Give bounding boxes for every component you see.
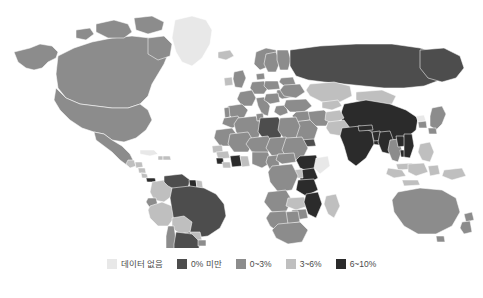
legend-item-below-zero: 0% 미만	[177, 259, 222, 269]
map-legend: 데이터 없음 0% 미만 0~3% 3~6% 6~10%	[0, 252, 483, 276]
country-haiti	[158, 156, 163, 160]
country-honduras	[135, 162, 143, 168]
legend-item-label: 6~10%	[350, 259, 377, 269]
country-ghana	[240, 156, 250, 167]
zero-to-three-swatch	[236, 259, 246, 269]
six-to-ten-swatch	[336, 259, 346, 269]
country-denmark	[256, 73, 265, 80]
country-finland	[277, 50, 291, 70]
country-ireland	[224, 77, 233, 86]
legend-item-six-to-ten: 6~10%	[336, 259, 377, 269]
country-indonesia-sulawesi	[428, 165, 440, 176]
legend-item-label: 3~6%	[300, 259, 322, 269]
legend-item-label: 0~3%	[250, 259, 272, 269]
country-portugal	[224, 107, 230, 118]
country-costa-rica	[141, 173, 148, 178]
legend-item-label: 데이터 없음	[121, 259, 163, 269]
three-to-six-swatch	[286, 259, 296, 269]
country-nepal	[358, 125, 373, 131]
legend-item-no-data: 데이터 없음	[107, 259, 163, 269]
legend-item-label: 0% 미만	[191, 259, 222, 269]
country-indonesia-java	[402, 180, 420, 186]
choropleth-map	[0, 0, 483, 248]
country-new-zealand-north	[464, 212, 474, 222]
legend-item-zero-to-three: 0~3%	[236, 259, 272, 269]
country-japan-south	[428, 128, 437, 134]
country-poland	[264, 81, 280, 90]
country-south-korea	[418, 121, 427, 128]
country-nicaragua	[138, 168, 146, 173]
below-zero-swatch	[177, 259, 187, 269]
country-tasmania	[436, 236, 445, 242]
world-map-figure: 데이터 없음 0% 미만 0~3% 3~6% 6~10%	[0, 0, 483, 298]
country-dominican-republic	[163, 156, 171, 160]
country-liberia	[222, 162, 231, 168]
map-svg	[0, 0, 483, 248]
no-data-swatch	[107, 259, 117, 269]
country-uruguay	[198, 240, 206, 246]
legend-item-three-to-six: 3~6%	[286, 259, 322, 269]
